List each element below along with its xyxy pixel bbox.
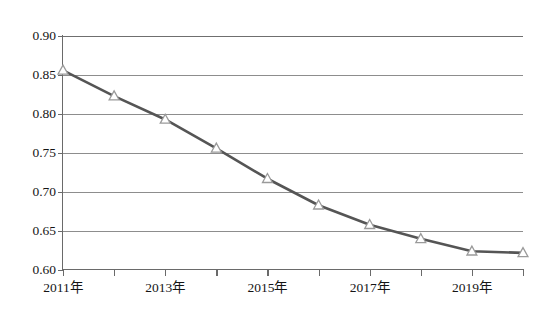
y-axis-tick — [58, 114, 63, 115]
x-axis-tick-label: 2011年 — [43, 281, 83, 295]
line-chart-figure: 0.900.850.800.750.700.650.60 2011年2013年2… — [0, 0, 540, 315]
x-axis-tick — [165, 270, 166, 276]
x-axis-tick-label: 2013年 — [145, 281, 185, 295]
x-axis-tick-label: 2017年 — [350, 281, 390, 295]
x-axis-tick — [267, 270, 268, 276]
x-axis-tick — [319, 270, 320, 276]
x-axis-tick — [114, 270, 115, 276]
x-axis-tick — [523, 270, 524, 276]
x-axis-tick — [370, 270, 371, 276]
y-axis-tick — [58, 192, 63, 193]
data-series-layer — [0, 0, 540, 315]
series-line — [63, 70, 523, 253]
y-axis-tick — [58, 75, 63, 76]
x-axis-tick — [216, 270, 217, 276]
y-axis-tick — [58, 36, 63, 37]
data-point-marker — [58, 65, 68, 74]
y-axis-tick — [58, 231, 63, 232]
y-axis-tick — [58, 153, 63, 154]
x-axis-tick-label: 2015年 — [247, 281, 287, 295]
x-axis-tick — [421, 270, 422, 276]
x-axis-tick-label: 2019年 — [452, 281, 492, 295]
x-axis-tick — [472, 270, 473, 276]
x-axis-tick — [63, 270, 64, 276]
